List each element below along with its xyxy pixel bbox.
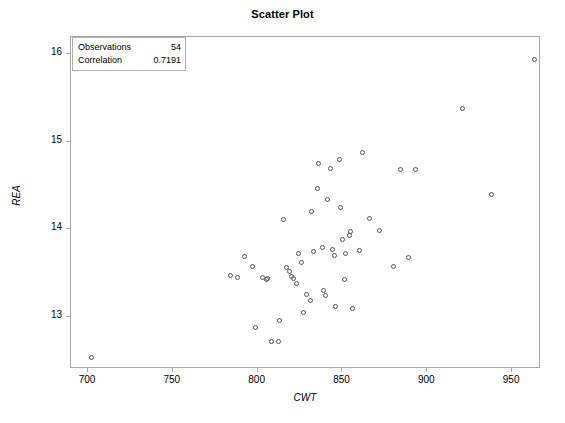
data-point bbox=[265, 276, 270, 281]
data-point bbox=[333, 304, 338, 309]
data-point bbox=[357, 248, 362, 253]
data-point bbox=[348, 229, 353, 234]
data-point bbox=[330, 247, 335, 252]
data-point bbox=[235, 275, 240, 280]
data-point bbox=[281, 217, 286, 222]
x-tick-mark bbox=[172, 368, 173, 372]
data-point bbox=[242, 254, 247, 259]
data-point bbox=[320, 245, 325, 250]
x-tick-label: 900 bbox=[406, 374, 446, 385]
x-tick-label: 950 bbox=[491, 374, 531, 385]
data-point bbox=[277, 318, 282, 323]
y-tick-mark bbox=[66, 228, 70, 229]
x-tick-label: 850 bbox=[321, 374, 361, 385]
y-tick-mark bbox=[66, 316, 70, 317]
data-point bbox=[406, 255, 411, 260]
data-point bbox=[340, 237, 345, 242]
data-point bbox=[308, 298, 313, 303]
data-point bbox=[337, 157, 342, 162]
x-tick-label: 700 bbox=[67, 374, 107, 385]
x-tick-mark bbox=[87, 368, 88, 372]
data-point bbox=[532, 57, 537, 62]
data-point bbox=[413, 167, 418, 172]
data-point bbox=[287, 269, 292, 274]
x-tick-mark bbox=[426, 368, 427, 372]
data-point bbox=[294, 281, 299, 286]
data-point bbox=[309, 209, 314, 214]
correlation-row: Correlation 0.7191 bbox=[78, 54, 181, 67]
data-point bbox=[304, 292, 309, 297]
data-point bbox=[321, 288, 326, 293]
data-point bbox=[342, 277, 347, 282]
x-tick-label: 750 bbox=[152, 374, 192, 385]
y-tick-label: 14 bbox=[40, 221, 62, 232]
data-point bbox=[338, 205, 343, 210]
observations-label: Observations bbox=[78, 41, 131, 54]
data-point bbox=[332, 253, 337, 258]
data-point bbox=[316, 161, 321, 166]
data-point bbox=[391, 264, 396, 269]
data-point bbox=[367, 216, 372, 221]
data-point bbox=[350, 306, 355, 311]
scatter-plot-figure: Scatter Plot 700750800850900950 13141516… bbox=[0, 0, 565, 423]
x-tick-label: 800 bbox=[237, 374, 277, 385]
data-point bbox=[325, 197, 330, 202]
data-point bbox=[228, 273, 233, 278]
x-axis-label: CWT bbox=[70, 392, 540, 403]
y-tick-label: 16 bbox=[40, 46, 62, 57]
data-point bbox=[460, 106, 465, 111]
y-tick-mark bbox=[66, 53, 70, 54]
x-tick-mark bbox=[511, 368, 512, 372]
data-point bbox=[489, 192, 494, 197]
data-point bbox=[360, 150, 365, 155]
x-tick-mark bbox=[257, 368, 258, 372]
data-point bbox=[343, 251, 348, 256]
data-point bbox=[250, 264, 255, 269]
observations-row: Observations 54 bbox=[78, 41, 181, 54]
statistics-legend-box: Observations 54 Correlation 0.7191 bbox=[72, 37, 186, 71]
data-point bbox=[276, 339, 281, 344]
data-point bbox=[253, 325, 258, 330]
data-point bbox=[398, 167, 403, 172]
y-tick-label: 13 bbox=[40, 309, 62, 320]
data-point bbox=[311, 249, 316, 254]
y-axis-label: REA bbox=[11, 166, 22, 226]
data-point bbox=[89, 355, 94, 360]
data-point bbox=[328, 166, 333, 171]
y-tick-label: 15 bbox=[40, 134, 62, 145]
data-point bbox=[269, 339, 274, 344]
correlation-value: 0.7191 bbox=[153, 54, 181, 67]
data-point bbox=[377, 228, 382, 233]
plot-frame bbox=[70, 36, 540, 368]
data-point bbox=[299, 260, 304, 265]
chart-title: Scatter Plot bbox=[0, 8, 565, 20]
data-point bbox=[323, 293, 328, 298]
data-point bbox=[296, 251, 301, 256]
y-tick-mark bbox=[66, 141, 70, 142]
x-tick-mark bbox=[341, 368, 342, 372]
plot-area bbox=[71, 37, 539, 367]
data-point bbox=[301, 310, 306, 315]
correlation-label: Correlation bbox=[78, 54, 122, 67]
data-point bbox=[315, 186, 320, 191]
observations-value: 54 bbox=[171, 41, 181, 54]
data-point bbox=[291, 276, 296, 281]
